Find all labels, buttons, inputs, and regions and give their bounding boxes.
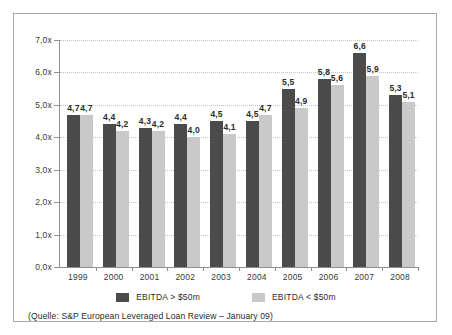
x-axis-tick-mark (132, 267, 133, 271)
bar (210, 121, 223, 267)
y-axis-tick-mark (54, 105, 59, 106)
y-axis-tick-mark (54, 235, 59, 236)
bar-group: 4,54,7 (246, 40, 272, 267)
bar-value-label: 5,5 (277, 77, 299, 87)
bar-group: 5,85,6 (318, 40, 344, 267)
source-note: (Quelle: S&P European Leveraged Loan Rev… (28, 311, 273, 321)
bar (80, 115, 93, 267)
legend-swatch (116, 293, 129, 302)
y-axis-tick-label: 1,0x (18, 230, 52, 240)
plot-area: 4,74,74,44,24,34,24,44,04,54,14,54,75,54… (60, 40, 418, 267)
y-axis-tick-label: 4,0x (18, 132, 52, 142)
bar-group: 5,35,1 (389, 40, 415, 267)
y-axis-tick-mark (54, 40, 59, 41)
legend-label: EBITDA > $50m (136, 292, 200, 302)
x-axis-tick-mark (311, 267, 312, 271)
bar-value-label: 5,1 (398, 90, 420, 100)
bar (116, 131, 129, 267)
legend-swatch (252, 293, 265, 302)
y-axis-tick-mark (54, 267, 59, 268)
x-axis-tick-mark (418, 267, 419, 271)
x-axis-tick-mark (96, 267, 97, 271)
y-axis-tick-mark (54, 137, 59, 138)
x-axis-tick-mark (275, 267, 276, 271)
y-axis-tick-label: 7,0x (18, 35, 52, 45)
x-axis-tick-mark (239, 267, 240, 271)
bar (282, 89, 295, 267)
legend-label: EBITDA < $50m (272, 292, 336, 302)
bar (259, 115, 272, 267)
x-axis-tick-mark (203, 267, 204, 271)
bar-group: 4,44,0 (174, 40, 200, 267)
y-axis-tick-label: 5,0x (18, 100, 52, 110)
bar-value-label: 4,9 (290, 96, 312, 106)
bar (103, 124, 116, 267)
bar-value-label: 4,4 (170, 112, 192, 122)
legend-item: EBITDA < $50m (252, 292, 336, 302)
bar-group: 4,34,2 (139, 40, 165, 267)
y-axis-tick-label: 6,0x (18, 67, 52, 77)
bar-value-label: 4,2 (147, 119, 169, 129)
bar-group: 4,54,1 (210, 40, 236, 267)
bar (318, 79, 331, 267)
bar-value-label: 6,6 (349, 41, 371, 51)
bar-value-label: 4,7 (254, 103, 276, 113)
chart-figure: 0,0x1,0x2,0x3,0x4,0x5,0x6,0x7,0x 4,74,74… (13, 13, 437, 322)
x-axis-tick-label: 2008 (377, 272, 423, 282)
bar-value-label: 4,1 (219, 122, 241, 132)
bar (139, 128, 152, 267)
bar-value-label: 5,9 (362, 64, 384, 74)
bar (402, 102, 415, 267)
bar (389, 95, 402, 267)
bar (246, 121, 259, 267)
bar (366, 76, 379, 267)
bar (331, 85, 344, 267)
bar-group: 4,74,7 (67, 40, 93, 267)
bar (67, 115, 80, 267)
y-axis-tick-mark (54, 170, 59, 171)
bar-group: 5,54,9 (282, 40, 308, 267)
y-axis-tick-label: 2,0x (18, 197, 52, 207)
bar-value-label: 5,6 (326, 73, 348, 83)
bar-value-label: 4,7 (75, 103, 97, 113)
bar (223, 134, 236, 267)
bar (353, 53, 366, 267)
bar-value-label: 4,0 (183, 125, 205, 135)
y-axis-tick-label: 0,0x (18, 262, 52, 272)
x-axis-tick-mark (167, 267, 168, 271)
legend-item: EBITDA > $50m (116, 292, 200, 302)
bar (187, 137, 200, 267)
y-axis-tick-mark (54, 72, 59, 73)
bar (295, 108, 308, 267)
bar-group: 6,65,9 (353, 40, 379, 267)
y-axis-tick-label: 3,0x (18, 165, 52, 175)
x-axis-tick-mark (382, 267, 383, 271)
bar (174, 124, 187, 267)
x-axis-tick-mark (346, 267, 347, 271)
y-axis-tick-labels: 0,0x1,0x2,0x3,0x4,0x5,0x6,0x7,0x (14, 40, 52, 268)
bar-value-label: 4,2 (111, 119, 133, 129)
bar-group: 4,44,2 (103, 40, 129, 267)
bar (152, 131, 165, 267)
chart-legend: EBITDA > $50mEBITDA < $50m (14, 292, 438, 302)
bar-value-label: 4,5 (206, 109, 228, 119)
y-axis-tick-mark (54, 202, 59, 203)
